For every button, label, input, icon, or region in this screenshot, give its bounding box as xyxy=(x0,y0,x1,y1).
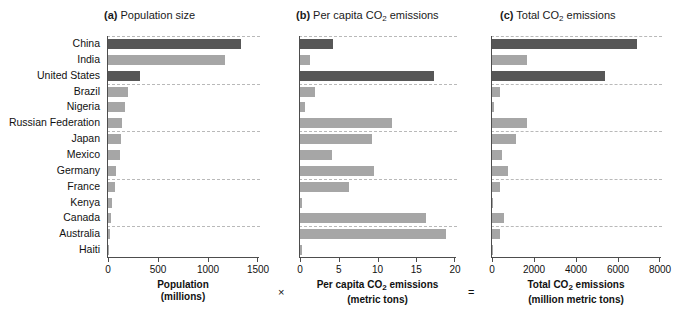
bar-total_co2-france xyxy=(492,182,500,192)
axis-caption-per-capita-co2-line1: Per capita CO2 emissions xyxy=(300,279,455,294)
axis-caption-population: Population (millions) xyxy=(108,279,258,302)
plot-area-population xyxy=(108,36,258,258)
x-tick xyxy=(659,258,660,262)
axis-caption-per-capita-co2-line2: (metric tons) xyxy=(300,294,455,306)
bar-per_capita_co2-china xyxy=(300,39,333,49)
bar-population-united-states xyxy=(108,71,140,81)
gridline xyxy=(491,84,662,85)
operator-equals: = xyxy=(468,286,474,298)
x-tick xyxy=(208,258,209,262)
bar-total_co2-india xyxy=(492,55,527,65)
bar-population-haiti xyxy=(108,245,109,255)
x-tick xyxy=(492,258,493,262)
axis-caption-total-co2-line2: (million metric tons) xyxy=(492,294,660,306)
bar-total_co2-japan xyxy=(492,134,516,144)
panel-tag-a: (a) xyxy=(104,9,117,21)
bar-population-kenya xyxy=(108,198,112,208)
gridline xyxy=(299,84,457,85)
gridline xyxy=(491,131,662,132)
country-label-canada: Canada xyxy=(63,210,100,226)
gridline xyxy=(107,131,260,132)
x-tick-label: 4000 xyxy=(565,264,587,276)
bar-per_capita_co2-haiti xyxy=(300,245,302,255)
gridline xyxy=(107,179,260,180)
gridline xyxy=(107,226,260,227)
gridline xyxy=(107,84,260,85)
panel-tag-b: (b) xyxy=(296,9,310,21)
x-tick xyxy=(576,258,577,262)
country-label-mexico: Mexico xyxy=(67,147,100,163)
bar-per_capita_co2-mexico xyxy=(300,150,332,160)
bar-population-nigeria xyxy=(108,102,125,112)
figure-root: (a) Population size (b) Per capita CO2 e… xyxy=(0,0,680,314)
axis-caption-total-co2: Total CO2 emissions (million metric tons… xyxy=(492,279,660,305)
bar-per_capita_co2-united-states xyxy=(300,71,434,81)
panel-title-text-c: Total CO2 emissions xyxy=(516,9,615,21)
x-tick xyxy=(454,258,455,262)
gridline xyxy=(491,226,662,227)
bar-per_capita_co2-france xyxy=(300,182,349,192)
x-tick-label: 0 xyxy=(105,264,111,276)
bar-total_co2-mexico xyxy=(492,150,502,160)
country-label-india: India xyxy=(77,52,100,68)
panel-per-capita-co2: 05101520 xyxy=(300,36,455,258)
axis-caption-total-co2-line1: Total CO2 emissions xyxy=(492,279,660,294)
x-tick xyxy=(339,258,340,262)
x-tick xyxy=(378,258,379,262)
x-tick-label: 10 xyxy=(372,264,383,276)
axis-caption-population-line1: Population xyxy=(108,279,258,291)
bar-total_co2-kenya xyxy=(492,198,493,208)
country-label-united-states: United States xyxy=(37,68,100,84)
plot-area-total-co2 xyxy=(492,36,660,258)
bar-per_capita_co2-india xyxy=(300,55,310,65)
gridline xyxy=(299,226,457,227)
bar-population-brazil xyxy=(108,87,128,97)
y-axis-line xyxy=(107,36,108,258)
x-axis-line xyxy=(107,257,259,258)
x-tick xyxy=(300,258,301,262)
country-label-australia: Australia xyxy=(59,226,100,242)
x-tick xyxy=(257,258,258,262)
bar-total_co2-nigeria xyxy=(492,102,494,112)
country-label-kenya: Kenya xyxy=(70,195,100,211)
x-tick-label: 2000 xyxy=(523,264,545,276)
gridline xyxy=(491,179,662,180)
bar-total_co2-australia xyxy=(492,229,500,239)
bar-population-russian-federation xyxy=(108,118,122,128)
country-label-haiti: Haiti xyxy=(79,242,100,258)
bar-population-mexico xyxy=(108,150,120,160)
x-tick-label: 1000 xyxy=(197,264,219,276)
panel-title-a: (a) Population size xyxy=(104,8,195,22)
operator-multiply: × xyxy=(278,286,284,298)
bar-per_capita_co2-nigeria xyxy=(300,102,305,112)
bar-total_co2-germany xyxy=(492,166,508,176)
bar-population-germany xyxy=(108,166,116,176)
x-tick xyxy=(108,258,109,262)
gridline xyxy=(107,36,260,37)
panel-population: 050010001500 xyxy=(108,36,258,258)
bar-total_co2-brazil xyxy=(492,87,500,97)
x-tick xyxy=(618,258,619,262)
bar-total_co2-russian-federation xyxy=(492,118,527,128)
bar-per_capita_co2-brazil xyxy=(300,87,315,97)
x-tick-label: 5 xyxy=(336,264,342,276)
y-axis-line xyxy=(299,36,300,258)
bar-population-france xyxy=(108,182,115,192)
bar-per_capita_co2-kenya xyxy=(300,198,302,208)
panel-title-text-b: Per capita CO2 emissions xyxy=(313,9,439,21)
bar-population-india xyxy=(108,55,225,65)
panel-title-c: (c) Total CO2 emissions xyxy=(500,8,616,26)
panel-tag-c: (c) xyxy=(500,9,513,21)
x-tick-label: 20 xyxy=(449,264,460,276)
x-tick-label: 6000 xyxy=(607,264,629,276)
country-axis-labels: ChinaIndiaUnited StatesBrazilNigeriaRuss… xyxy=(0,36,104,258)
x-tick-label: 500 xyxy=(150,264,167,276)
x-tick-label: 8000 xyxy=(649,264,671,276)
bar-per_capita_co2-japan xyxy=(300,134,372,144)
panel-title-text-a: Population size xyxy=(121,9,196,21)
country-label-russian-federation: Russian Federation xyxy=(9,115,100,131)
bar-population-japan xyxy=(108,134,121,144)
axis-caption-population-line2: (millions) xyxy=(108,291,258,303)
bar-per_capita_co2-canada xyxy=(300,213,426,223)
x-tick xyxy=(416,258,417,262)
